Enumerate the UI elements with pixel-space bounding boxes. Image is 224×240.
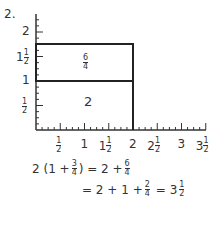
x-axis-tick-label: 2 — [129, 137, 137, 151]
x-axis-tick-label: 312 — [196, 137, 209, 154]
x-axis-tick-label: 3 — [178, 137, 186, 151]
x-axis-tick-label: 1 — [81, 137, 89, 151]
y-axis-tick-label: 1 — [22, 73, 30, 87]
y-axis-tick-label: 2 — [22, 24, 30, 38]
upper-region-label: 64 — [83, 54, 88, 71]
lower-region-label: 2 — [84, 96, 92, 108]
equation-line-2: = 2 + 1 + 24 = 3 12 — [82, 181, 184, 198]
x-axis-tick-label: 112 — [99, 137, 112, 154]
x-axis-tick-label: 12 — [56, 137, 61, 154]
y-axis-tick-label: 12 — [22, 98, 27, 115]
equation-line-1: 2 (1 + 34 ) = 2 + 64 — [32, 160, 130, 177]
y-axis-tick-label: 112 — [16, 49, 29, 66]
x-axis-tick-label: 212 — [147, 137, 160, 154]
